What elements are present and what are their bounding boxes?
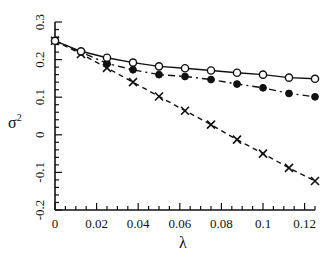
axes: -0.2-0.100.10.20.300.020.040.060.080.10.… [32, 14, 316, 231]
open-circle-marker [207, 67, 214, 74]
x-tick-label: 0.04 [127, 216, 150, 231]
cross-marker [155, 92, 163, 100]
cross-marker [233, 136, 241, 144]
filled-circle-marker [234, 81, 241, 88]
cross-marker [311, 177, 319, 185]
open-circle-marker [285, 74, 292, 81]
x-tick-label: 0 [52, 216, 59, 231]
filled-circle-marker [156, 71, 163, 78]
filled-circle-marker [286, 90, 293, 97]
cross-marker [207, 121, 215, 129]
x-tick-label: 0.08 [210, 216, 233, 231]
open-circle-marker [103, 54, 110, 61]
x-tick-label: 0.06 [168, 216, 191, 231]
y-tick-label: -0.2 [32, 200, 47, 221]
filled-circle-marker [182, 73, 189, 80]
cross-marker [129, 78, 137, 86]
filled-circle-marker [312, 93, 319, 100]
filled-circle-marker [260, 84, 267, 91]
open-circle-marker [77, 48, 84, 55]
y-axis-label: σ2 [8, 112, 22, 131]
open-circle-marker [51, 37, 58, 44]
open-circle-marker [129, 59, 136, 66]
x-tick-label: 0.1 [255, 216, 271, 231]
open-circle-marker [181, 65, 188, 72]
cross-marker [259, 150, 267, 158]
y-tick-label: 0.3 [32, 14, 47, 30]
open-circle-marker [311, 75, 318, 82]
chart-plot: -0.2-0.100.10.20.300.020.040.060.080.10.… [0, 0, 326, 265]
y-tick-label: 0.2 [32, 51, 47, 67]
cross-marker [285, 164, 293, 172]
y-tick-label: 0 [32, 132, 47, 139]
filled-circle-marker [130, 66, 137, 73]
data-series [51, 37, 319, 185]
y-tick-label: 0.1 [32, 89, 47, 105]
x-tick-label: 0.02 [85, 216, 108, 231]
x-axis-label: λ [179, 234, 187, 251]
open-circle-marker [233, 69, 240, 76]
cross-marker [181, 107, 189, 115]
x-tick-label: 0.12 [293, 216, 316, 231]
open-circle-marker [155, 63, 162, 70]
filled-circle-marker [208, 76, 215, 83]
y-tick-label: -0.1 [32, 162, 47, 183]
open-circle-marker [259, 71, 266, 78]
